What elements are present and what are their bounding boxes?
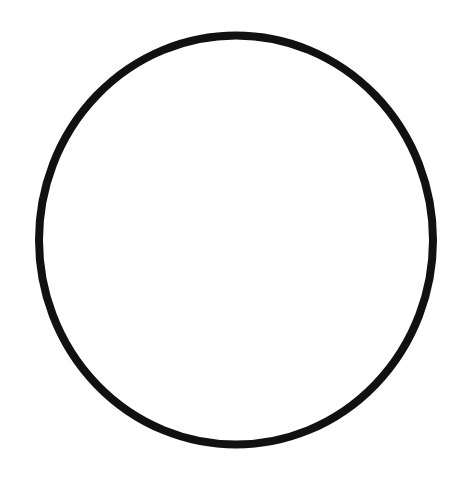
circle-outline: [39, 36, 433, 445]
drawing-canvas: [0, 0, 470, 485]
diagram-svg: [0, 0, 470, 485]
